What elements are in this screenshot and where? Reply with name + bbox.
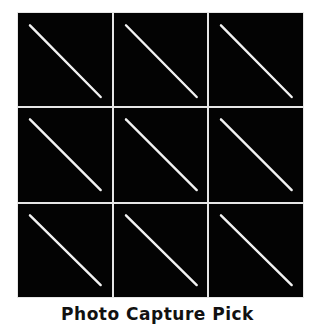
diagonal-line-icon xyxy=(18,108,112,201)
grid-cell-2-3[interactable] xyxy=(209,108,303,201)
diagonal-line-icon xyxy=(114,13,208,106)
diagonal-line-icon xyxy=(209,108,303,201)
grid-cell-2-2[interactable] xyxy=(114,108,208,201)
grid-cell-1-2[interactable] xyxy=(114,13,208,106)
grid-cell-3-3[interactable] xyxy=(209,204,303,297)
diagonal-line-icon xyxy=(209,204,303,297)
grid-cell-1-3[interactable] xyxy=(209,13,303,106)
grid-cell-3-1[interactable] xyxy=(18,204,112,297)
image-grid xyxy=(17,12,304,298)
diagonal-line-icon xyxy=(209,13,303,106)
grid-cell-2-1[interactable] xyxy=(18,108,112,201)
grid-caption: Photo Capture Pick xyxy=(0,304,315,324)
diagonal-line-icon xyxy=(114,108,208,201)
diagonal-line-icon xyxy=(18,204,112,297)
diagonal-line-icon xyxy=(18,13,112,106)
grid-cell-1-1[interactable] xyxy=(18,13,112,106)
diagonal-line-icon xyxy=(114,204,208,297)
grid-cell-3-2[interactable] xyxy=(114,204,208,297)
